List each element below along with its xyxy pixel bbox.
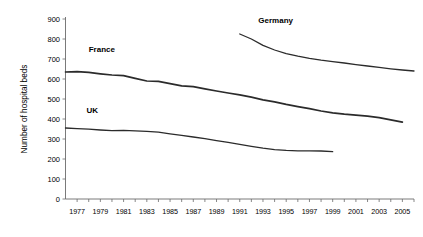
x-tick-label: 1989 [209,207,225,216]
x-axis-tick-labels: 1977197919811983198519871989199119931995… [69,207,410,216]
series-label-france: France [89,45,116,54]
y-tick-label: 700 [47,55,60,64]
x-tick-label: 1997 [302,207,318,216]
y-tick-label: 500 [47,95,60,104]
series-label-germany: Germany [258,16,293,25]
series-line-france [66,72,403,123]
x-tick-label: 1979 [93,207,109,216]
series-line-germany [240,34,414,71]
series-line-uk [66,128,333,152]
y-tick-label: 0 [56,195,60,204]
x-tick-label: 1987 [185,207,201,216]
chart-canvas: 0100200300400500600700800900 19771979198… [0,0,423,237]
x-tick-label: 2005 [395,207,411,216]
x-tick-label: 1991 [232,207,248,216]
y-tick-label: 100 [47,175,60,184]
y-tick-label: 300 [47,135,60,144]
x-tick-label: 1999 [325,207,341,216]
y-tick-label: 400 [47,115,60,124]
y-tick-label: 800 [47,35,60,44]
y-tick-label: 900 [47,15,60,24]
y-tick-label: 200 [47,155,60,164]
y-axis-group: 0100200300400500600700800900 [47,15,65,204]
x-tick-label: 1977 [69,207,85,216]
line-chart: 0100200300400500600700800900 19771979198… [0,0,423,237]
x-tick-label: 1995 [278,207,294,216]
x-tick-label: 1983 [139,207,155,216]
x-axis-group: 1977197919811983198519871989199119931995… [66,199,415,216]
x-tick-label: 1993 [255,207,271,216]
y-axis-title: Number of hospital beds [20,65,29,154]
x-tick-label: 1981 [116,207,132,216]
series-label-uk: UK [86,106,98,115]
y-tick-label: 600 [47,75,60,84]
x-tick-label: 2003 [371,207,387,216]
x-tick-label: 2001 [348,207,364,216]
x-tick-label: 1985 [162,207,178,216]
y-axis-tick-labels: 0100200300400500600700800900 [47,15,60,204]
series-lines [66,34,415,152]
